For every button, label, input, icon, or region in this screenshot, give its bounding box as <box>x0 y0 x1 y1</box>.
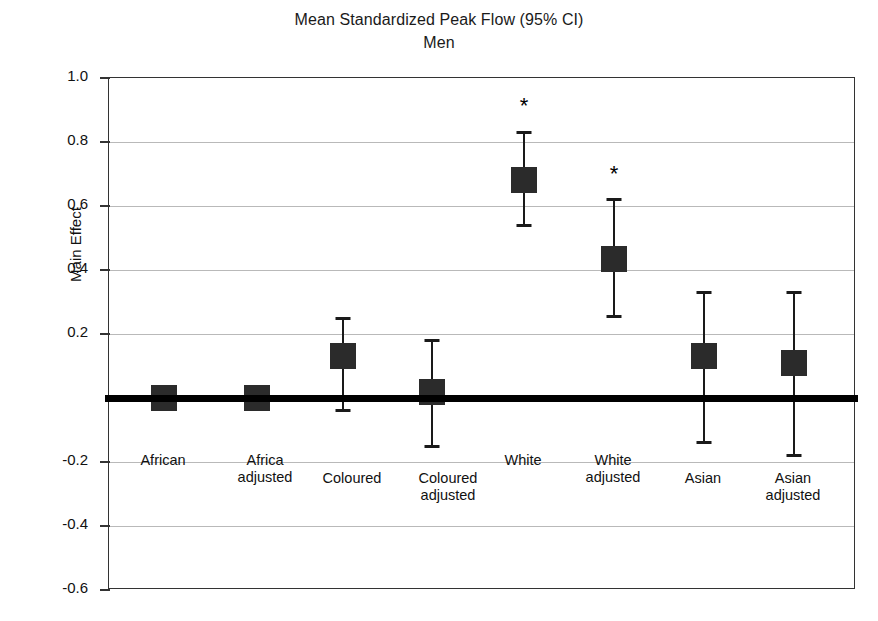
category-label: Coloured <box>323 470 382 487</box>
y-axis-tick-label: 0.2 <box>0 323 88 340</box>
y-axis-tick-label: -0.6 <box>0 579 88 596</box>
category-label: Coloured adjusted <box>419 470 478 504</box>
error-bar-cap-lower <box>607 315 622 318</box>
error-bar-cap-upper <box>425 339 440 342</box>
chart-title-block: Mean Standardized Peak Flow (95% CI) Men <box>0 8 878 54</box>
data-point-marker[interactable] <box>511 167 537 193</box>
data-point-marker[interactable] <box>781 350 807 376</box>
category-label: Asian <box>685 470 721 487</box>
error-bar-cap-upper <box>336 317 351 320</box>
chart-title: Mean Standardized Peak Flow (95% CI) <box>0 8 878 31</box>
error-bar-cap-lower <box>787 454 802 457</box>
error-bar-cap-lower <box>517 224 532 227</box>
y-axis-tick-label: 1.0 <box>0 67 88 84</box>
y-axis-tick <box>100 589 110 591</box>
error-bar-cap-upper <box>517 131 532 134</box>
significance-asterisk: * <box>520 95 529 117</box>
zero-line <box>105 395 858 402</box>
data-point-marker[interactable] <box>601 246 627 272</box>
error-bar-cap-lower <box>697 441 712 444</box>
y-axis-tick-label: 0.6 <box>0 195 88 212</box>
category-label: Africa adjusted <box>238 452 293 486</box>
data-point-marker[interactable] <box>330 343 356 369</box>
y-axis-tick-label: 0.8 <box>0 131 88 148</box>
error-bar-cap-upper <box>607 198 622 201</box>
category-label: Asian adjusted <box>766 470 821 504</box>
y-axis-tick-label: -0.2 <box>0 451 88 468</box>
chart-subtitle: Men <box>0 31 878 54</box>
chart-figure: Mean Standardized Peak Flow (95% CI) Men… <box>0 0 878 621</box>
plot-area: ** <box>108 77 855 589</box>
data-point-marker[interactable] <box>691 343 717 369</box>
error-bar-cap-lower <box>336 409 351 412</box>
y-axis-tick-label: 0.4 <box>0 259 88 276</box>
category-label: African <box>140 452 185 469</box>
error-bar-cap-lower <box>425 445 440 448</box>
significance-asterisk: * <box>610 163 619 185</box>
category-label: White <box>504 452 541 469</box>
error-bar-cap-upper <box>697 291 712 294</box>
error-bar-cap-upper <box>787 291 802 294</box>
data-series: ** <box>109 78 854 588</box>
category-label: White adjusted <box>586 452 641 486</box>
y-axis-tick-label: -0.4 <box>0 515 88 532</box>
